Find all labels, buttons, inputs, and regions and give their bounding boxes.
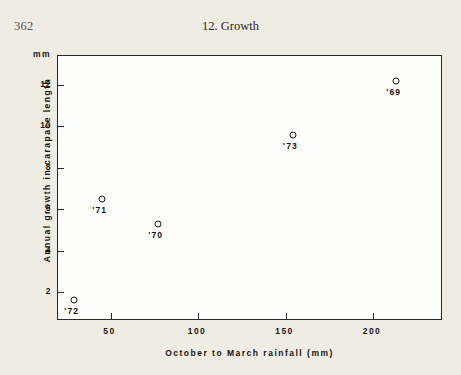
- scatter-figure: mm Annual growth in carapace length '72'…: [0, 0, 461, 375]
- y-axis-tick: [58, 251, 64, 252]
- x-axis-title: October to March rainfall (mm): [57, 348, 442, 358]
- x-axis-tick-label: 100: [177, 326, 217, 336]
- y-axis-tick: [58, 168, 64, 169]
- data-point-marker: [289, 131, 296, 138]
- y-axis-tick-label: 4: [27, 245, 51, 255]
- y-axis-tick: [58, 126, 64, 127]
- x-axis-tick: [198, 313, 199, 319]
- y-axis-tick: [58, 292, 64, 293]
- data-point-marker: [392, 77, 399, 84]
- y-axis-tick-label: 10: [27, 120, 51, 130]
- y-axis-tick: [58, 85, 64, 86]
- data-point-marker: [154, 220, 161, 227]
- data-point-label: '69: [386, 87, 401, 97]
- data-point-label: '73: [283, 141, 298, 151]
- x-axis-tick-label: 150: [265, 326, 305, 336]
- x-axis-tick: [286, 313, 287, 319]
- data-point-label: '72: [64, 306, 79, 316]
- y-axis-tick-label: 2: [27, 286, 51, 296]
- x-axis-tick: [373, 313, 374, 319]
- plot-frame: '72'71'70'73'69: [57, 55, 442, 320]
- data-point-marker: [98, 195, 105, 202]
- y-axis-tick-label: 6: [27, 203, 51, 213]
- x-axis-tick-label: 200: [352, 326, 392, 336]
- data-point-label: '70: [148, 230, 163, 240]
- data-point-label: '71: [92, 205, 107, 215]
- y-axis-tick: [58, 209, 64, 210]
- y-axis-tick-label: 12: [27, 79, 51, 89]
- plot-area: '72'71'70'73'69: [58, 56, 441, 319]
- data-point-marker: [70, 297, 77, 304]
- x-axis-tick: [111, 313, 112, 319]
- x-axis-tick-label: 50: [90, 326, 130, 336]
- y-axis-tick-label: 8: [27, 162, 51, 172]
